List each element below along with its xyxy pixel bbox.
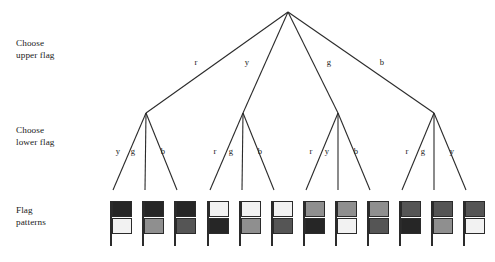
diagram-canvas: Choose upper flag Choose lower flag Flag… [0, 0, 495, 262]
flag-upper-band-y [209, 201, 229, 217]
edge-label-upper-b: b [380, 58, 384, 67]
flag-lower-band-b [369, 218, 389, 234]
flag-patterns-row [0, 0, 495, 262]
flag-upper-band-b [433, 201, 453, 217]
edge-label-lower-r-b: b [161, 147, 165, 156]
flag-lower-band-r [305, 218, 325, 234]
edge-label-lower-y-r: r [214, 147, 217, 156]
flag-upper-band-r [144, 201, 164, 217]
edge-label-lower-g-r: r [310, 147, 313, 156]
flag-upper-band-b [401, 201, 421, 217]
row-label-choose-lower-flag: Choose lower flag [16, 125, 55, 148]
flag-upper-band-b [465, 201, 485, 217]
flag-lower-band-y [112, 218, 132, 234]
flag-lower-band-r [401, 218, 421, 234]
edge-label-lower-g-b: b [354, 147, 358, 156]
edge-label-lower-b-r: r [406, 147, 409, 156]
edge-label-lower-b-y: y [450, 147, 454, 156]
edge-label-lower-r-y: y [116, 147, 120, 156]
flag-lower-band-g [144, 218, 164, 234]
flag-upper-band-g [305, 201, 325, 217]
row-label-choose-upper-flag: Choose upper flag [16, 38, 55, 61]
flag-lower-band-g [241, 218, 261, 234]
row-label-flag-patterns: Flag patterns [16, 205, 46, 228]
edge-label-lower-g-y: y [325, 147, 329, 156]
flag-upper-band-r [176, 201, 196, 217]
flag-upper-band-y [273, 201, 293, 217]
edge-label-lower-b-g: g [421, 147, 425, 156]
flag-upper-band-r [112, 201, 132, 217]
flag-lower-band-r [209, 218, 229, 234]
edge-label-upper-g: g [327, 58, 331, 67]
edge-label-lower-y-g: g [229, 147, 233, 156]
flag-lower-band-b [176, 218, 196, 234]
flag-lower-band-b [273, 218, 293, 234]
flag-lower-band-y [465, 218, 485, 234]
edge-label-lower-r-g: g [131, 147, 135, 156]
flag-upper-band-g [337, 201, 357, 217]
edge-label-lower-y-b: b [258, 147, 262, 156]
flag-upper-band-y [241, 201, 261, 217]
flag-lower-band-y [337, 218, 357, 234]
flag-lower-band-g [433, 218, 453, 234]
flag-upper-band-g [369, 201, 389, 217]
edge-label-upper-y: y [245, 58, 249, 67]
edge-label-upper-r: r [195, 58, 198, 67]
